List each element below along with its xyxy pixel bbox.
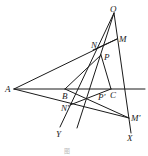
label-a: A [4,84,11,94]
label-n-prime: N' [60,103,70,113]
label-m: M [118,34,127,44]
label-n: N [90,40,98,50]
label-x: X [126,133,133,143]
label-c: C [110,90,117,100]
label-p: P [103,52,110,62]
label-b: B [62,91,68,101]
label-y: Y [56,129,62,139]
geometry-figure: O M N P A B C P' N' M' Y X 图 [0,0,148,156]
figure-caption: 图 [64,147,70,155]
label-o: O [110,4,117,14]
ray-o-p [77,13,114,128]
label-p-prime: P' [97,92,106,102]
segment-b-p [65,55,101,89]
label-m-prime: M' [130,113,141,123]
